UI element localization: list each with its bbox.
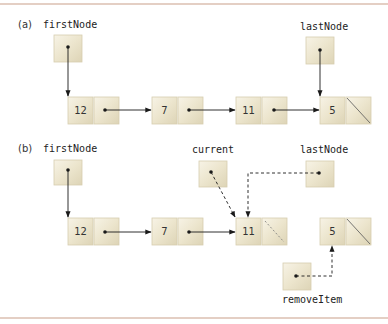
node-value: 11: [242, 226, 255, 237]
part-a-node-12: 12: [68, 97, 119, 124]
part-b-removeitem-box: [283, 263, 311, 290]
part-a-lastnode-label: lastNode: [300, 21, 348, 32]
node-value: 5: [329, 226, 335, 237]
node-value: 12: [74, 105, 87, 116]
part-b-node-5: 5: [320, 218, 371, 245]
part-b: (b) firstNode current lastNode removeIte…: [18, 143, 371, 305]
node-value: 7: [161, 105, 167, 116]
part-b-current-label: current: [192, 144, 234, 155]
node-value: 11: [242, 105, 255, 116]
part-a-node-11: 11: [236, 97, 287, 124]
part-a-node-5: 5: [320, 97, 371, 124]
part-b-node-12: 12: [68, 218, 119, 245]
part-b-node-11: 11: [236, 218, 287, 245]
part-a: (a) firstNode lastNode 12 7: [18, 19, 371, 124]
part-b-label: (b): [18, 143, 32, 154]
part-b-current-box: [199, 161, 227, 187]
linked-list-removal-diagram: (a) firstNode lastNode 12 7: [0, 0, 388, 324]
node-value: 12: [74, 226, 87, 237]
part-b-removeitem-label: removeItem: [282, 294, 342, 305]
node-value: 5: [329, 105, 335, 116]
part-a-node-7: 7: [152, 97, 203, 124]
part-b-lastnode-label: lastNode: [300, 144, 348, 155]
part-b-node-7: 7: [152, 218, 203, 245]
part-b-lastnode-box: [306, 161, 334, 187]
part-a-label: (a): [18, 19, 32, 30]
part-a-firstnode-label: firstNode: [43, 19, 97, 30]
node-value: 7: [161, 226, 167, 237]
part-b-firstnode-label: firstNode: [43, 143, 97, 154]
